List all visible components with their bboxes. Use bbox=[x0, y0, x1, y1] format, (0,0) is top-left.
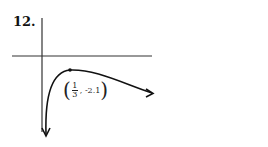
label-fraction: 1 3 bbox=[72, 82, 78, 99]
arrow-right-icon bbox=[146, 89, 153, 97]
maximum-point bbox=[68, 68, 72, 72]
label-y-value: , -2.1 bbox=[80, 86, 101, 95]
label-numerator: 1 bbox=[72, 82, 77, 90]
label-denominator: 3 bbox=[72, 91, 77, 99]
point-label: ( 1 3 , -2.1 ) bbox=[63, 80, 108, 100]
label-open-paren: ( bbox=[63, 80, 71, 100]
graph bbox=[0, 0, 268, 147]
label-close-paren: ) bbox=[100, 80, 108, 100]
